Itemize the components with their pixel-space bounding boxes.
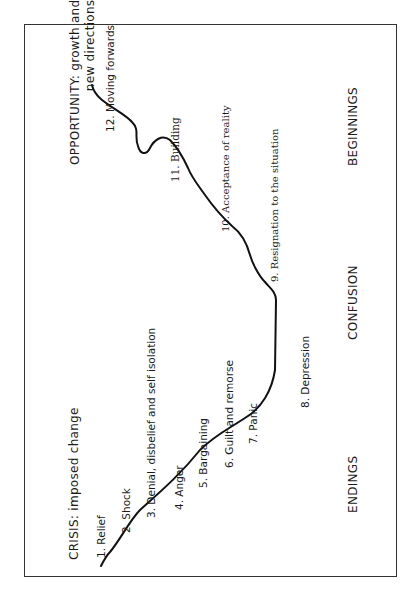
zone-endings-label: ENDINGS: [347, 456, 359, 513]
phase-end-label: OPPORTUNITY: growth and new directions: [68, 0, 98, 165]
stage-9-label: 9. Resignation to the situation: [270, 129, 280, 282]
stage-2-label: 2. Shock: [121, 488, 132, 533]
stage-3-label: 3. Denial, disbelief and self isolation: [146, 328, 157, 518]
zone-beginnings-label: BEGINNINGS: [347, 87, 359, 166]
stage-7-label: 7. Panic: [248, 403, 259, 444]
stage-5-label: 5. Bargaining: [198, 418, 209, 488]
phase-start-label: CRISIS: imposed change: [68, 407, 80, 560]
stage-4-label: 4. Anger: [174, 465, 185, 510]
stage-6-label: 6. Guilt and remorse: [224, 360, 235, 468]
stage-11-label: 11. Building: [170, 117, 181, 182]
stage-1-label: 1. Relief: [96, 515, 107, 558]
zone-confusion-label: CONFUSION: [347, 265, 359, 340]
stage-10-label: 10. Acceptance of reality: [221, 105, 231, 232]
stage-8-label: 8. Depression: [300, 336, 311, 408]
stage-12-label: 12. Moving forwards: [105, 25, 116, 132]
